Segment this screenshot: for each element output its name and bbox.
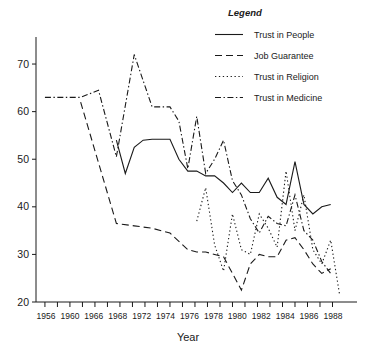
x-tick-label: 1978: [204, 311, 223, 321]
line-chart: 203040506070 195619601966196819721974197…: [0, 0, 371, 351]
y-tick-label: 20: [17, 296, 29, 308]
y-tick-label: 50: [17, 153, 29, 165]
y-tick-label: 40: [17, 200, 29, 212]
x-tick-label: 1974: [156, 311, 175, 321]
y-tick-label: 30: [17, 248, 29, 260]
legend-label-trust-in-people: Trust in People: [254, 30, 314, 40]
legend-label-trust-in-religion: Trust in Religion: [254, 72, 319, 82]
legend-label-job-guarantee: Job Guarantee: [254, 51, 314, 61]
x-tick-label: 1956: [37, 311, 56, 321]
x-axis-title: Year: [177, 331, 200, 343]
x-tick-label: 1966: [84, 311, 103, 321]
y-axis: 203040506070: [17, 37, 36, 308]
x-tick-label: 1972: [132, 311, 151, 321]
y-tick-label: 70: [17, 58, 29, 70]
x-tick-label: 1980: [228, 311, 247, 321]
series-line-trust-in-people: [116, 139, 330, 214]
x-tick-label: 1968: [108, 311, 127, 321]
chart-canvas: 203040506070 195619601966196819721974197…: [0, 0, 371, 351]
x-tick-label: 1988: [324, 311, 343, 321]
x-tick-label: 1982: [252, 311, 271, 321]
legend-title: Legend: [228, 7, 262, 18]
series-lines: [45, 55, 340, 295]
x-tick-label: 1960: [60, 311, 79, 321]
series-line-trust-in-medicine: [45, 55, 331, 274]
x-tick-label: 1986: [300, 311, 319, 321]
x-tick-label: 1976: [180, 311, 199, 321]
legend: LegendTrust in PeopleJob GuaranteeTrust …: [215, 7, 322, 103]
x-axis: 1956196019661968197219741976197819801982…: [36, 302, 357, 321]
series-line-trust-in-religion: [197, 171, 340, 295]
x-tick-label: 1984: [276, 311, 295, 321]
y-tick-label: 60: [17, 105, 29, 117]
series-line-job-guarantee: [81, 102, 331, 290]
legend-label-trust-in-medicine: Trust in Medicine: [254, 93, 322, 103]
